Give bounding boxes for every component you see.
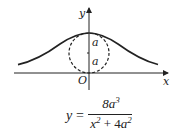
origin-label: O — [78, 74, 87, 87]
formula-equals: = — [76, 108, 84, 124]
curve-equation: y = 8a3 x2 + 4a2 — [0, 96, 177, 136]
formula-lhs: y — [66, 108, 72, 124]
agnesi-curve — [18, 33, 158, 65]
fraction-bar — [88, 114, 132, 115]
y-axis-label: y — [78, 7, 86, 20]
x-axis-label: x — [163, 75, 170, 88]
radius-label-top: a — [92, 36, 99, 49]
radius-label-bottom: a — [92, 55, 99, 68]
formula-denominator: x2 + 4a2 — [86, 116, 136, 132]
formula-numerator: 8a3 — [90, 96, 132, 112]
